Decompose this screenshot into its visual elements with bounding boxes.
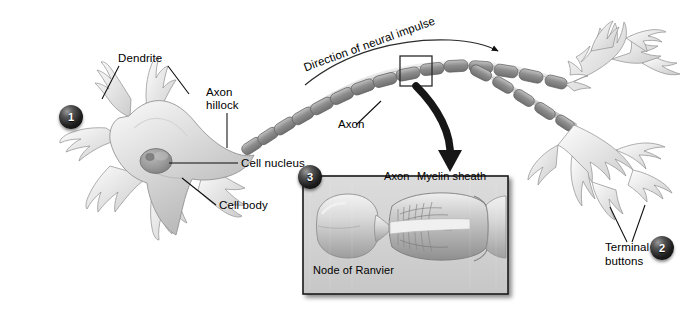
cell-nucleus-shape <box>140 149 172 174</box>
label-terminal-buttons-line2: buttons <box>605 255 643 268</box>
neuron-diagram-figure: Dendrite Axon hillock Cell nucleus Cell … <box>0 0 696 312</box>
label-dendrite: Dendrite <box>118 52 162 65</box>
inset-label-node-of-ranvier: Node of Ranvier <box>313 264 394 277</box>
label-axon: Axon <box>338 118 365 131</box>
label-axon-hillock-line1: Axon <box>206 86 233 99</box>
label-cell-body: Cell body <box>219 199 268 212</box>
label-axon-hillock-line2: hillock <box>206 99 239 112</box>
terminal-buttons-tree-upper <box>566 21 680 91</box>
terminal-buttons-leader-lines <box>610 205 645 242</box>
badge-1: 1 <box>59 105 83 129</box>
inset-pointer-arrow <box>416 86 462 172</box>
inset-label-myelin-sheath: Myelin sheath <box>417 170 486 183</box>
inset-left-segment <box>317 194 379 258</box>
label-cell-nucleus: Cell nucleus <box>241 157 305 170</box>
myelin-segments <box>240 60 576 157</box>
badge-2: 2 <box>650 236 674 260</box>
terminal-buttons-tree-lower <box>528 125 672 220</box>
badge-3: 3 <box>298 165 322 189</box>
inset-label-axon: Axon <box>384 170 409 183</box>
label-terminal-buttons-line1: Terminal <box>605 241 649 254</box>
